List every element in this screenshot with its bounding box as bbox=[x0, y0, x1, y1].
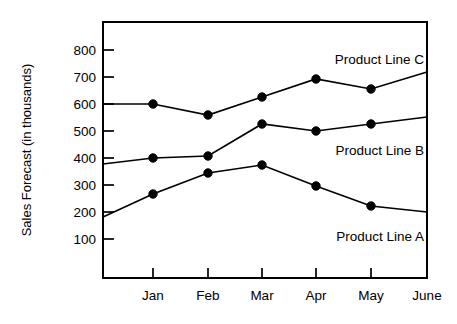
x-tick-label: Mar bbox=[250, 288, 274, 303]
line-chart-figure: Sales Forecast (in thousands) 800 700 60… bbox=[0, 0, 457, 324]
x-tick-label: Jan bbox=[142, 288, 164, 303]
data-point-marker bbox=[258, 161, 266, 169]
y-axis-tick-labels: 800 700 600 500 400 300 200 100 bbox=[73, 43, 96, 247]
y-axis-ticks bbox=[104, 50, 114, 239]
y-tick-label: 100 bbox=[73, 232, 96, 247]
series-label-product-line-a: Product Line A bbox=[336, 229, 424, 244]
y-tick-label: 400 bbox=[73, 151, 96, 166]
y-tick-label: 200 bbox=[73, 205, 96, 220]
y-tick-label: 300 bbox=[73, 178, 96, 193]
data-point-marker bbox=[312, 182, 320, 190]
x-tick-label: Apr bbox=[305, 288, 327, 303]
y-axis-title: Sales Forecast (in thousands) bbox=[19, 64, 34, 237]
y-tick-label: 700 bbox=[73, 70, 96, 85]
y-tick-label: 800 bbox=[73, 43, 96, 58]
x-axis-ticks bbox=[153, 268, 371, 277]
data-point-marker bbox=[149, 100, 157, 108]
data-point-marker bbox=[149, 190, 157, 198]
data-point-marker bbox=[204, 111, 212, 119]
data-point-marker bbox=[367, 202, 375, 210]
series-label-product-line-c: Product Line C bbox=[335, 52, 425, 67]
data-point-marker bbox=[258, 93, 266, 101]
data-point-marker bbox=[312, 75, 320, 83]
y-tick-label: 600 bbox=[73, 97, 96, 112]
data-point-marker bbox=[258, 120, 266, 128]
x-axis-tick-labels: Jan Feb Mar Apr May June bbox=[142, 288, 442, 303]
data-point-marker bbox=[204, 152, 212, 160]
data-point-marker bbox=[312, 127, 320, 135]
data-point-marker bbox=[149, 154, 157, 162]
y-tick-label: 500 bbox=[73, 124, 96, 139]
x-tick-label: Feb bbox=[196, 288, 219, 303]
data-point-marker bbox=[367, 120, 375, 128]
series-product-line-a bbox=[103, 161, 427, 217]
x-tick-label: June bbox=[412, 288, 441, 303]
x-tick-label: May bbox=[358, 288, 384, 303]
series-label-product-line-b: Product Line B bbox=[335, 143, 424, 158]
data-point-marker bbox=[367, 85, 375, 93]
data-point-marker bbox=[204, 169, 212, 177]
chart-canvas: Sales Forecast (in thousands) 800 700 60… bbox=[0, 0, 457, 324]
series-product-line-c bbox=[103, 72, 427, 119]
